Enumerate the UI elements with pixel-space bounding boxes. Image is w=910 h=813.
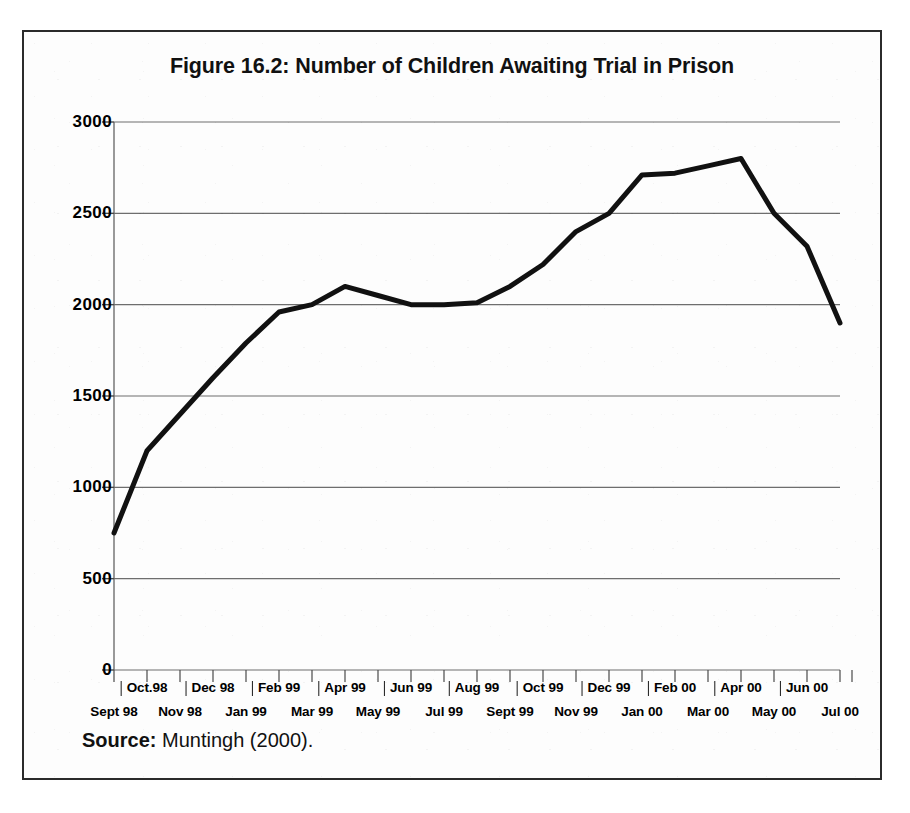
chart-svg — [24, 32, 884, 782]
x-axis-tick-label: Oct 99 — [523, 680, 564, 695]
x-axis-tick-label: Oct.98 — [127, 680, 168, 695]
y-axis-tick-labels: 050010001500200025003000 — [44, 32, 112, 782]
source-caption: Source: Muntingh (2000). — [82, 729, 313, 752]
x-axis-tick-label: Apr 99 — [324, 680, 365, 695]
x-axis-tick-label: Jan 99 — [225, 704, 266, 719]
y-axis-tick-label: 3000 — [73, 112, 112, 132]
source-label: Source: — [82, 729, 156, 751]
x-axis-tick-label: Jun 00 — [786, 680, 828, 695]
x-axis-tick-label: Dec 98 — [192, 680, 235, 695]
x-axis-tick-label: Jun 99 — [390, 680, 432, 695]
x-axis-tick-label: Dec 99 — [588, 680, 631, 695]
x-axis-tick-label: Apr 00 — [720, 680, 761, 695]
y-axis-tick-label: 0 — [102, 660, 112, 680]
x-axis-tick-label: Sept 99 — [486, 704, 533, 719]
x-axis-tick-label: Mar 00 — [687, 704, 729, 719]
x-axis-tick-label: Jul 00 — [821, 704, 859, 719]
x-axis-tick-label: Feb 99 — [258, 680, 300, 695]
x-axis-tick-label: Nov 99 — [554, 704, 598, 719]
y-axis-tick-label: 500 — [82, 569, 112, 589]
x-axis-tick-label: Mar 99 — [291, 704, 333, 719]
x-axis-tick-label: May 99 — [356, 704, 400, 719]
x-axis-tick-label: May 00 — [752, 704, 796, 719]
y-axis-tick-label: 1500 — [73, 386, 112, 406]
source-text: Muntingh (2000). — [156, 729, 313, 751]
x-axis-tick-label: Nov 98 — [158, 704, 202, 719]
x-axis-tick-label: Jan 00 — [621, 704, 662, 719]
y-axis-tick-label: 2500 — [73, 203, 112, 223]
y-axis-tick-label: 2000 — [73, 295, 112, 315]
x-axis-tick-label: Jul 99 — [425, 704, 463, 719]
x-axis-tick-label: Aug 99 — [455, 680, 499, 695]
data-series-line — [114, 159, 840, 533]
figure-frame: Figure 16.2: Number of Children Awaiting… — [22, 30, 882, 780]
y-axis-tick-label: 1000 — [73, 477, 112, 497]
x-axis-tick-label: Sept 98 — [90, 704, 137, 719]
chart-plot-area: 050010001500200025003000 Sept 98Oct.98No… — [24, 32, 884, 782]
x-axis-tick-label: Feb 00 — [654, 680, 696, 695]
